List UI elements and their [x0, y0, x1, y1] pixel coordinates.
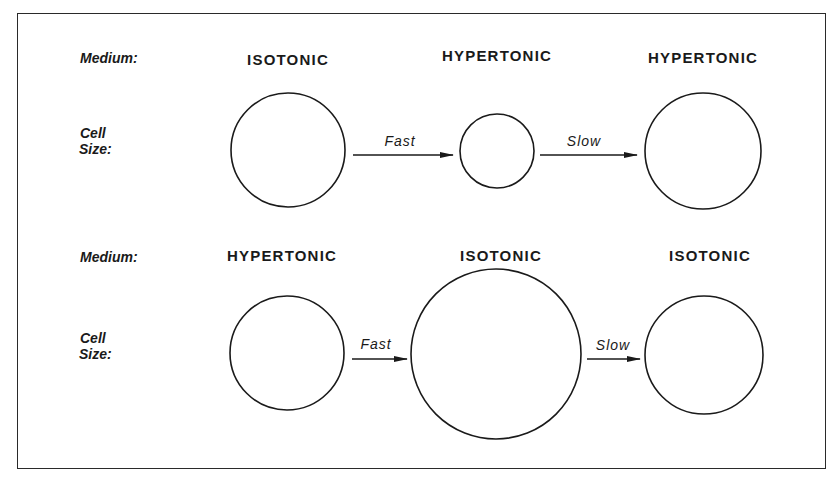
transition-label-row2-slow: Slow [596, 337, 630, 353]
diagram-graphics [0, 0, 838, 486]
medium-value-row2-stage3: ISOTONIC [669, 247, 751, 264]
transition-label-row2-fast: Fast [360, 336, 391, 352]
medium-value-row2-stage1: HYPERTONIC [227, 247, 337, 264]
transition-label-row1-fast: Fast [384, 133, 415, 149]
cell-circle-row1-isotonic [231, 93, 345, 207]
medium-value-row1-stage1: ISOTONIC [247, 51, 329, 68]
cell-circle-row2-isotonic-recovered [645, 296, 763, 414]
row-2-graphics [230, 269, 763, 439]
cell-circle-row2-hypertonic [230, 296, 344, 410]
medium-value-row2-stage2: ISOTONIC [460, 247, 542, 264]
cell-label-row1: Cell [80, 125, 106, 141]
medium-value-row1-stage3: HYPERTONIC [648, 49, 758, 66]
medium-label-row2: Medium: [80, 249, 138, 265]
cell-circle-row1-hypertonic-shrunken [460, 114, 534, 188]
row-1-graphics [231, 93, 761, 209]
cell-circle-row2-isotonic-swollen [411, 269, 581, 439]
medium-value-row1-stage2: HYPERTONIC [442, 47, 552, 64]
transition-label-row1-slow: Slow [567, 133, 601, 149]
size-label-row2: Size: [79, 346, 112, 362]
medium-label-row1: Medium: [80, 50, 138, 66]
size-label-row1: Size: [79, 141, 112, 157]
cell-circle-row1-hypertonic-recovered [645, 93, 761, 209]
cell-label-row2: Cell [80, 330, 106, 346]
